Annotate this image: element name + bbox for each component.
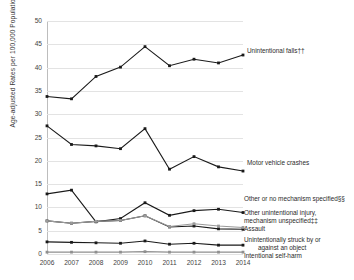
data-point-marker [119,251,122,254]
data-point-marker [119,219,122,222]
y-tick-label: 15 [20,180,42,187]
data-point-marker [70,251,73,254]
data-point-marker [193,155,196,158]
data-point-marker [119,242,122,245]
series-label-motor-vehicle-crashes: Motor vehicle crashes [247,159,309,167]
data-point-marker [193,222,196,225]
data-point-marker [144,240,147,243]
data-point-marker [95,251,98,254]
data-point-marker [70,222,73,225]
y-tick-label: 0 [20,250,42,257]
data-point-marker [46,220,49,223]
data-point-marker [144,45,147,48]
y-tick-label: 30 [20,110,42,117]
data-point-marker [46,251,49,254]
data-point-marker [168,243,171,246]
data-point-marker [217,165,220,168]
series-label-struck-by-object-line2: against an object [244,244,306,252]
series-unintentional-falls [46,45,245,100]
data-point-marker [95,75,98,78]
data-point-marker [168,251,171,254]
data-point-marker [193,242,196,245]
data-point-marker [70,97,73,100]
data-point-marker [46,95,49,98]
data-point-marker [70,189,73,192]
data-point-marker [217,244,220,247]
data-point-marker [193,58,196,61]
y-tick-label: 5 [20,227,42,234]
data-point-marker [242,170,245,173]
series-label-unintentional-falls: Unintentional falls†† [247,47,305,55]
y-tick-label: 35 [20,87,42,94]
data-point-marker [46,192,49,195]
series-unintentionally-struck-by-or-against-an-object [46,240,245,247]
data-point-marker [95,220,98,223]
data-point-marker [168,214,171,217]
series-label-other-unintentional-injury-line1: Other unintentional injury, [244,209,316,217]
data-point-marker [46,240,49,243]
data-point-marker [119,147,122,150]
data-point-marker [217,62,220,65]
line-chart: Age-adjusted Rates per 100,000 Populatio… [0,0,354,280]
data-point-marker [217,251,220,254]
data-point-marker [46,124,49,127]
series-label-other-or-no-mechanism: Other or no mechanism specified§§ [244,195,345,203]
x-tick-label: 2014 [226,259,260,266]
series-label-struck-by-object-line1: Unintentionally struck by or [244,236,321,244]
data-point-marker [144,127,147,130]
series-label-other-unintentional-injury-line2: mechanism unspecified‡‡ [244,217,318,225]
data-point-marker [193,209,196,212]
data-point-marker [217,227,220,230]
data-point-marker [193,251,196,254]
y-tick-label: 10 [20,203,42,210]
y-tick-label: 45 [20,40,42,47]
data-point-marker [168,64,171,67]
data-point-marker [168,225,171,228]
series-other-or-no-mechanism-specified [46,189,245,223]
series-label-assault: Assault [244,225,265,233]
series-motor-vehicle-crashes [46,124,245,172]
y-tick-label: 50 [20,17,42,24]
y-tick-label: 20 [20,157,42,164]
data-point-marker [119,66,122,69]
data-point-marker [95,144,98,147]
y-tick-label: 40 [20,64,42,71]
data-point-marker [168,168,171,171]
data-point-marker [217,225,220,228]
data-point-marker [217,208,220,211]
data-point-marker [70,143,73,146]
series-line [47,216,243,228]
y-tick-label: 25 [20,134,42,141]
data-point-marker [242,54,245,57]
data-point-marker [144,214,147,217]
series-intentional-self-harm [46,250,245,253]
data-point-marker [144,201,147,204]
data-point-marker [95,241,98,244]
series-assault [46,214,245,228]
series-line [47,126,243,171]
data-point-marker [70,241,73,244]
data-point-marker [144,250,147,253]
series-line [47,47,243,99]
